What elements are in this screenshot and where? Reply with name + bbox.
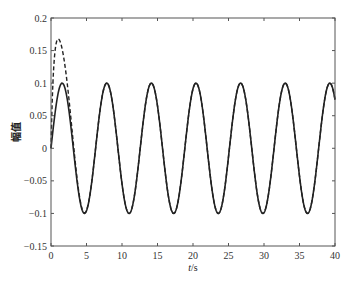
- y-tick-label: −0.05: [24, 175, 47, 186]
- x-tick-label: 35: [295, 250, 305, 261]
- y-tick-label: −0.15: [24, 241, 47, 252]
- line-chart: 0510152025303540 −0.15−0.1−0.0500.050.10…: [0, 0, 349, 286]
- y-tick-label: 0.05: [30, 110, 48, 121]
- y-axis-label: 幅值: [10, 122, 22, 142]
- x-tick-label: 40: [330, 250, 340, 261]
- y-tick-label: 0.2: [35, 13, 48, 24]
- x-tick-label: 30: [259, 250, 269, 261]
- x-tick-label: 15: [153, 250, 163, 261]
- x-tick-label: 0: [49, 250, 54, 261]
- y-tick-label: 0: [42, 143, 47, 154]
- y-tick-label: 0.1: [35, 78, 48, 89]
- x-tick-label: 10: [117, 250, 127, 261]
- x-tick-label: 5: [84, 250, 89, 261]
- y-tick-label: −0.1: [29, 208, 47, 219]
- x-tick-label: 25: [224, 250, 234, 261]
- x-axis-label: t/s: [188, 262, 198, 273]
- x-axis-label-unit: /s: [191, 262, 198, 273]
- y-tick-label: 0.15: [30, 45, 48, 56]
- x-tick-label: 20: [188, 250, 198, 261]
